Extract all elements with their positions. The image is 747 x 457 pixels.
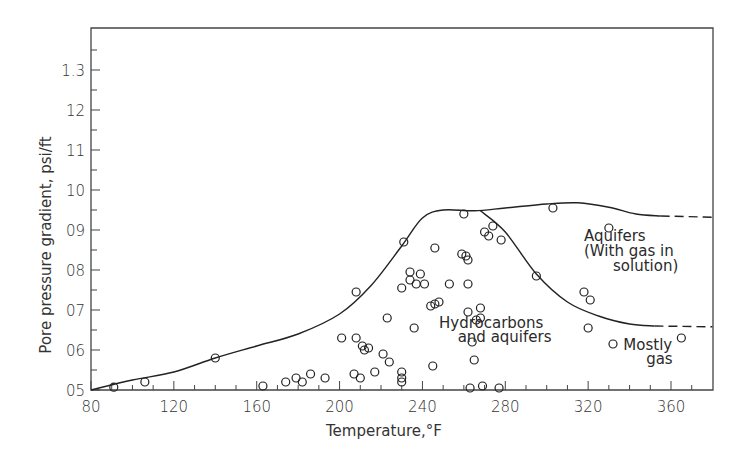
data-point-marker bbox=[421, 280, 429, 288]
data-point-marker bbox=[321, 374, 329, 382]
data-point-marker bbox=[338, 334, 346, 342]
envelope-curve bbox=[91, 203, 661, 390]
data-point-marker bbox=[497, 236, 505, 244]
data-point-marker bbox=[282, 378, 290, 386]
data-point-marker bbox=[464, 280, 472, 288]
x-tick-label: 200 bbox=[325, 398, 354, 416]
region-label: solution) bbox=[613, 257, 678, 275]
y-tick-label: 06 bbox=[66, 342, 85, 360]
data-point-marker bbox=[580, 288, 588, 296]
data-point-marker bbox=[412, 280, 420, 288]
data-point-marker bbox=[460, 210, 468, 218]
y-tick-label: 12 bbox=[66, 102, 85, 120]
data-point-marker bbox=[383, 314, 391, 322]
y-tick-label: 10 bbox=[66, 182, 85, 200]
y-tick-label: 08 bbox=[66, 262, 85, 280]
data-point-marker bbox=[416, 270, 424, 278]
x-tick-label: 320 bbox=[574, 398, 603, 416]
data-point-marker bbox=[495, 384, 503, 392]
x-tick-label: 280 bbox=[491, 398, 520, 416]
data-point-marker bbox=[609, 340, 617, 348]
plot-frame bbox=[91, 28, 713, 390]
x-tick-label: 120 bbox=[160, 398, 189, 416]
x-axis-label: Temperature,°F bbox=[325, 422, 442, 440]
data-point-marker bbox=[549, 204, 557, 212]
dashed-envelope-curve bbox=[661, 216, 713, 217]
y-tick-label: 11 bbox=[66, 142, 85, 160]
data-point-marker bbox=[259, 382, 267, 390]
data-point-marker bbox=[141, 378, 149, 386]
data-point-marker bbox=[410, 324, 418, 332]
data-point-marker bbox=[371, 368, 379, 376]
region-label: and aquifers bbox=[458, 328, 552, 346]
data-point-marker bbox=[586, 296, 594, 304]
y-tick-label: 1.3 bbox=[61, 62, 85, 80]
data-point-marker bbox=[479, 382, 487, 390]
data-point-marker bbox=[431, 244, 439, 252]
data-point-marker bbox=[429, 362, 437, 370]
data-point-marker bbox=[476, 304, 484, 312]
data-point-marker bbox=[406, 268, 414, 276]
region-annotations: Aquifers(With gas insolution)Hydrocarbon… bbox=[439, 227, 678, 368]
y-tick-label: 07 bbox=[66, 302, 85, 320]
x-tick-label: 160 bbox=[242, 398, 271, 416]
data-point-marker bbox=[379, 350, 387, 358]
data-point-marker bbox=[307, 370, 315, 378]
data-point-marker bbox=[298, 378, 306, 386]
y-axis-label: Pore pressure gradient, psi/ft bbox=[37, 136, 55, 353]
data-point-marker bbox=[466, 384, 474, 392]
x-tick-label: 360 bbox=[657, 398, 686, 416]
chart-canvas: 8012016020024028032036005060708091011121… bbox=[0, 0, 747, 457]
data-point-marker bbox=[445, 280, 453, 288]
data-point-marker bbox=[385, 358, 393, 366]
y-tick-label: 05 bbox=[66, 382, 85, 400]
data-point-marker bbox=[356, 374, 364, 382]
x-tick-label: 240 bbox=[408, 398, 437, 416]
data-point-marker bbox=[677, 334, 685, 342]
dashed-envelope-curve bbox=[654, 326, 712, 327]
data-point-marker bbox=[352, 334, 360, 342]
data-point-marker bbox=[398, 284, 406, 292]
data-point-marker bbox=[489, 222, 497, 230]
y-tick-label: 09 bbox=[66, 222, 85, 240]
data-point-marker bbox=[470, 356, 478, 364]
plot-border bbox=[91, 28, 713, 390]
x-tick-label: 80 bbox=[81, 398, 100, 416]
data-point-marker bbox=[584, 324, 592, 332]
data-point-marker bbox=[352, 288, 360, 296]
region-label: gas bbox=[646, 350, 673, 368]
